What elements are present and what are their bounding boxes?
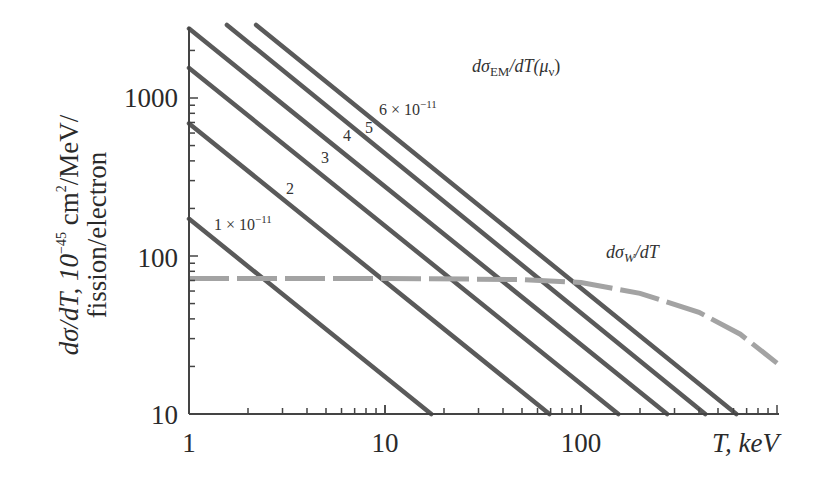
- svg-text:dσ/dT, 10−45 cm2/MeV/: dσ/dT, 10−45 cm2/MeV/: [54, 114, 84, 355]
- y-title-part1: dσ/dT, 10: [54, 253, 84, 355]
- em-annot-close: ): [554, 56, 560, 77]
- em-cross-section-line-6: [256, 25, 736, 414]
- y-title-part2: cm: [54, 192, 84, 232]
- line-label-mu5: 5: [365, 119, 373, 136]
- line-label-mu4: 4: [343, 127, 351, 144]
- y-tick-label-1000: 1000: [124, 83, 178, 113]
- line-label-mu2: 2: [286, 180, 294, 197]
- em-cross-section-line-5: [227, 25, 705, 414]
- w-annot-d-sigma: dσ: [606, 242, 625, 262]
- x-axis-title: T, keV: [712, 428, 782, 458]
- mu6-text: 6 × 10: [379, 101, 420, 118]
- em-cross-section-line-3: [189, 68, 618, 414]
- chart-figure: 1000 100 10 1 10 100 T, keV dσ/dT, 10−45…: [0, 0, 821, 487]
- em-cross-section-line-1: [189, 219, 431, 414]
- line-label-mu3: 3: [321, 149, 329, 166]
- w-annot-rest: /dT: [634, 242, 661, 262]
- mu1-exp: −11: [255, 213, 272, 225]
- y-tick-label-10: 10: [151, 400, 178, 430]
- em-annot-rest: /dT(μ: [508, 56, 548, 77]
- y-title-part3: /MeV/: [54, 114, 84, 185]
- em-annot-d-sigma: dσ: [472, 56, 491, 76]
- mu1-text: 1 × 10: [214, 216, 255, 233]
- em-annotation: dσEM/dT(μν): [472, 56, 560, 79]
- mu6-exp: −11: [420, 98, 437, 110]
- x-axis-title-text: T, keV: [712, 428, 782, 458]
- line-label-mu6: 6 × 10−11: [379, 98, 437, 118]
- y-title-line2: fission/electron: [82, 151, 112, 318]
- y-tick-label-100: 100: [138, 243, 179, 273]
- em-cross-section-line-2: [189, 124, 549, 415]
- w-annotation: dσW/dT: [606, 242, 661, 265]
- y-axis-title: dσ/dT, 10−45 cm2/MeV/ fission/electron: [54, 114, 112, 355]
- plot-area: [189, 25, 777, 414]
- x-tick-label-100: 100: [561, 428, 602, 458]
- y-title-sq: 2: [54, 185, 69, 192]
- em-annot-sub: EM: [490, 64, 510, 79]
- x-tick-label-1: 1: [182, 428, 196, 458]
- line-label-mu1: 1 × 10−11: [214, 213, 272, 233]
- x-tick-label-10: 10: [372, 428, 399, 458]
- y-title-exp: −45: [54, 232, 69, 254]
